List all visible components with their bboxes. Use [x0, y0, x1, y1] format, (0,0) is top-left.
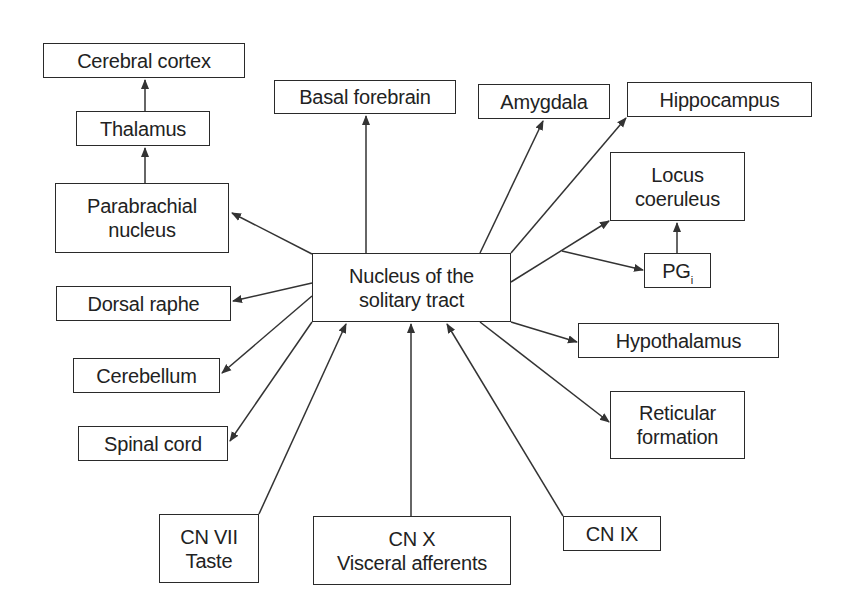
node-label-line1: Parabrachial — [87, 194, 197, 218]
node-label-line1: CN VII — [180, 525, 238, 549]
node-cn-x: CN X Visceral afferents — [313, 516, 511, 585]
node-label-line2: formation — [637, 425, 719, 449]
node-nucleus-solitary-tract: Nucleus of the solitary tract — [312, 253, 511, 322]
node-label: Thalamus — [100, 117, 186, 141]
node-cerebellum: Cerebellum — [73, 358, 220, 393]
edge-nts-to-amygdala — [480, 121, 543, 253]
edge-nts-to-hypothalamus — [511, 322, 577, 342]
node-label: Hippocampus — [659, 88, 779, 112]
node-basal-forebrain: Basal forebrain — [274, 80, 456, 114]
node-label-main: PG — [662, 260, 691, 282]
node-reticular-formation: Reticular formation — [610, 391, 745, 459]
node-parabrachial-nucleus: Parabrachial nucleus — [55, 183, 229, 253]
node-label-line2: Taste — [186, 549, 233, 573]
node-label: Cerebellum — [96, 364, 196, 388]
node-label-line1: Nucleus of the — [349, 264, 474, 288]
node-label-line1: CN X — [389, 527, 436, 551]
node-label: Hypothalamus — [616, 329, 741, 353]
node-label: Dorsal raphe — [87, 292, 199, 316]
node-label-line1: Locus — [651, 163, 703, 187]
node-label: Spinal cord — [104, 432, 202, 456]
node-label-line2: Visceral afferents — [337, 551, 487, 575]
node-spinal-cord: Spinal cord — [78, 426, 228, 461]
node-label: Basal forebrain — [299, 85, 431, 109]
edge-nts-to-dorsal-raphe — [233, 283, 312, 301]
node-hypothalamus: Hypothalamus — [578, 323, 779, 358]
node-cerebral-cortex: Cerebral cortex — [43, 43, 245, 78]
edge-nts-to-locus-coeruleus — [511, 221, 609, 282]
edge-nts-to-cerebellum — [222, 296, 312, 373]
node-locus-coeruleus: Locus coeruleus — [610, 152, 745, 221]
node-label-line2: solitary tract — [359, 288, 464, 312]
diagram-canvas: Cerebral cortex Thalamus Parabrachial nu… — [0, 0, 845, 616]
node-label-line2: coeruleus — [635, 187, 720, 211]
node-hippocampus: Hippocampus — [627, 82, 812, 117]
edge-nts-to-spinal-cord — [230, 322, 312, 441]
node-cn-vii: CN VII Taste — [159, 514, 259, 583]
edge-nts-to-hippocampus — [511, 118, 626, 253]
node-dorsal-raphe: Dorsal raphe — [56, 286, 231, 321]
node-label: PGi — [662, 259, 693, 283]
node-amygdala: Amygdala — [478, 84, 610, 119]
node-cn-ix: CN IX — [563, 516, 661, 551]
node-label: Amygdala — [500, 90, 587, 114]
edge-cn-ix-to-nts — [447, 324, 563, 516]
edge-cn-vii-to-nts — [259, 324, 346, 514]
node-label-subscript: i — [691, 274, 693, 286]
node-thalamus: Thalamus — [76, 111, 210, 146]
node-label-line2: nucleus — [108, 218, 176, 242]
edge-nts-to-pgi — [562, 251, 643, 270]
node-label: Cerebral cortex — [77, 49, 211, 73]
node-pgi: PGi — [644, 253, 711, 288]
edge-nts-to-parabrachial — [232, 213, 312, 254]
node-label: CN IX — [586, 522, 638, 546]
node-label-line1: Reticular — [639, 401, 716, 425]
